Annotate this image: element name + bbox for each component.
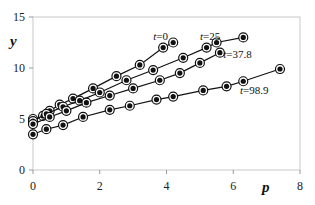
x-tick-label: 2 xyxy=(97,179,103,193)
y-axis-label: y xyxy=(8,33,17,49)
data-point-dot xyxy=(124,78,129,83)
chart: 02468051015 t=0t=25t=37.8t=98.9 y p xyxy=(0,0,315,205)
data-point-dot xyxy=(224,84,229,89)
series-label: t=25 xyxy=(200,30,221,42)
data-point-dot xyxy=(171,40,176,45)
data-point-dot xyxy=(204,45,209,50)
y-tick-label: 15 xyxy=(13,10,25,24)
data-point-dot xyxy=(114,74,119,79)
data-point-dot xyxy=(47,114,52,119)
data-point-dot xyxy=(277,66,282,71)
data-point-dot xyxy=(201,88,206,93)
data-point-dot xyxy=(241,35,246,40)
x-tick-label: 4 xyxy=(164,179,170,193)
x-tick-label: 8 xyxy=(297,179,303,193)
data-point-dot xyxy=(181,55,186,60)
data-point-dot xyxy=(127,103,132,108)
data-point-dot xyxy=(97,90,102,95)
data-point-dot xyxy=(177,71,182,76)
data-point-dot xyxy=(80,114,85,119)
data-point-dot xyxy=(30,132,35,137)
y-tick-label: 0 xyxy=(19,163,25,177)
data-point-dot xyxy=(217,50,222,55)
data-point-dot xyxy=(157,78,162,83)
data-point-dot xyxy=(171,94,176,99)
data-point-dot xyxy=(84,100,89,105)
y-tick-label: 5 xyxy=(19,112,25,126)
x-tick-label: 0 xyxy=(30,179,36,193)
series-label: t=37.8 xyxy=(223,48,252,60)
data-point-dot xyxy=(131,86,136,91)
data-point-dot xyxy=(161,45,166,50)
data-point-dot xyxy=(137,62,142,67)
data-point-dot xyxy=(64,108,69,113)
data-point-dot xyxy=(197,60,202,65)
y-tick-label: 10 xyxy=(13,61,25,75)
x-tick-label: 6 xyxy=(230,179,236,193)
series-label: t=98.9 xyxy=(240,84,269,96)
data-point-dot xyxy=(44,127,49,132)
data-point-dot xyxy=(90,86,95,91)
x-axis-label: p xyxy=(260,179,270,195)
data-point-dot xyxy=(60,123,65,128)
data-point-dot xyxy=(107,93,112,98)
data-point-dot xyxy=(151,67,156,72)
data-point-dot xyxy=(30,122,35,127)
data-point-dot xyxy=(154,97,159,102)
data-point-dot xyxy=(107,107,112,112)
series-label: t=0 xyxy=(153,30,168,42)
